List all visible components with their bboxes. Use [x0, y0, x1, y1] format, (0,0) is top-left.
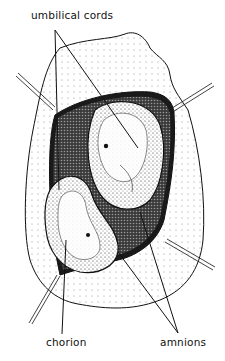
label-umbilical-cords: umbilical cords [31, 9, 113, 21]
label-chorion: chorion [46, 336, 87, 348]
illustration-svg [0, 0, 225, 361]
upper-embryo [88, 102, 164, 210]
embryo-illustration: umbilical cords chorion amnions [0, 0, 225, 361]
label-amnions: amnions [160, 336, 206, 348]
